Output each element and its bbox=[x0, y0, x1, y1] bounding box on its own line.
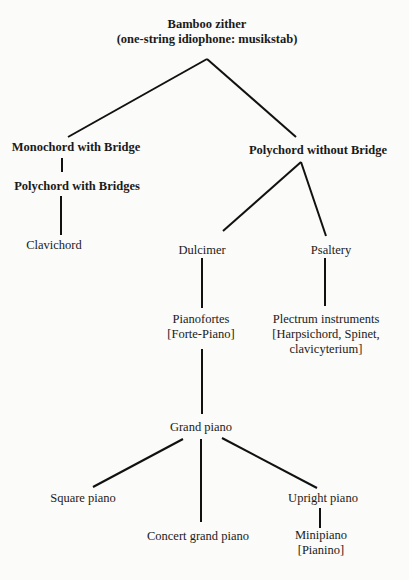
node-psaltery: Psaltery bbox=[311, 243, 351, 258]
node-sublabel: [Forte-Piano] bbox=[167, 327, 234, 342]
node-square-piano: Square piano bbox=[50, 491, 116, 506]
node-pianofortes: Pianofortes [Forte-Piano] bbox=[167, 312, 234, 342]
node-sublabel: [Harpsichord, Spinet, bbox=[272, 327, 379, 342]
node-sublabel: clavicyterium] bbox=[272, 342, 379, 357]
node-label: Polychord without Bridge bbox=[249, 143, 387, 158]
node-label: Plectrum instruments bbox=[272, 312, 379, 327]
node-label: Square piano bbox=[50, 491, 116, 506]
node-label: Minipiano bbox=[295, 528, 347, 543]
node-label: Pianofortes bbox=[167, 312, 234, 327]
node-title: Bamboo zither bbox=[117, 17, 298, 32]
node-plectrum-instruments: Plectrum instruments [Harpsichord, Spine… bbox=[272, 312, 379, 357]
node-grand-piano: Grand piano bbox=[170, 420, 232, 435]
node-label: Upright piano bbox=[288, 491, 358, 506]
node-label: Grand piano bbox=[170, 420, 232, 435]
node-bamboo-zither: Bamboo zither (one-string idiophone: mus… bbox=[117, 17, 298, 47]
node-label: Clavichord bbox=[26, 238, 82, 253]
node-upright-piano: Upright piano bbox=[288, 491, 358, 506]
node-label: Concert grand piano bbox=[147, 529, 249, 544]
node-label: Dulcimer bbox=[178, 243, 225, 258]
node-dulcimer: Dulcimer bbox=[178, 243, 225, 258]
node-concert-grand-piano: Concert grand piano bbox=[147, 529, 249, 544]
node-label: Monochord with Bridge bbox=[12, 140, 140, 155]
node-polychord-without-bridge: Polychord without Bridge bbox=[249, 143, 387, 158]
node-sublabel: [Pianino] bbox=[295, 543, 347, 558]
node-label: Polychord with Bridges bbox=[14, 179, 140, 194]
node-clavichord: Clavichord bbox=[26, 238, 82, 253]
node-minipiano: Minipiano [Pianino] bbox=[295, 528, 347, 558]
node-subtitle: (one-string idiophone: musikstab) bbox=[117, 32, 298, 47]
node-polychord-with-bridges: Polychord with Bridges bbox=[14, 179, 140, 194]
node-monochord-with-bridge: Monochord with Bridge bbox=[12, 140, 140, 155]
node-label: Psaltery bbox=[311, 243, 351, 258]
